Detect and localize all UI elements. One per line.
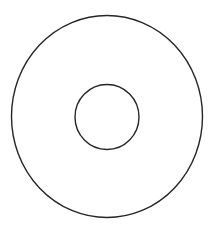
inner-circle	[75, 85, 139, 150]
diagram-canvas	[0, 0, 216, 230]
concentric-circles-diagram	[0, 0, 216, 230]
outer-circle	[12, 16, 203, 218]
